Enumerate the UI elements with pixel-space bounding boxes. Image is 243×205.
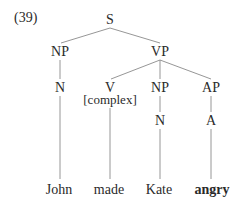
leaf-john: John xyxy=(46,183,72,197)
node-n-object: N xyxy=(155,114,165,128)
leaf-angry: angry xyxy=(195,183,230,197)
edge-s-np xyxy=(61,28,110,43)
node-s: S xyxy=(106,13,114,27)
node-vp: VP xyxy=(151,45,169,59)
leaf-kate: Kate xyxy=(146,183,172,197)
example-number: (39) xyxy=(14,11,37,25)
edge-vp-ap xyxy=(160,60,211,79)
node-n-subject: N xyxy=(55,81,65,95)
leaf-made: made xyxy=(94,183,124,197)
node-np-subject: NP xyxy=(51,45,69,59)
node-a: A xyxy=(206,114,216,128)
node-ap: AP xyxy=(202,81,220,95)
edge-s-vp xyxy=(110,28,160,43)
edge-vp-v xyxy=(111,60,160,79)
node-np-object: NP xyxy=(151,81,169,95)
node-v-feature: [complex] xyxy=(83,93,136,107)
